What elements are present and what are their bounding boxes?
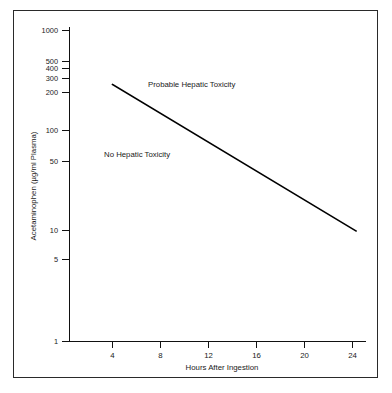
x-tick-label-4: 4 (110, 351, 115, 360)
x-axis-title: Hours After Ingestion (186, 363, 259, 372)
y-tick-label-1000: 1000 (42, 26, 58, 35)
y-tick-label-5: 5 (54, 255, 58, 264)
x-tick-label-12: 12 (204, 351, 213, 360)
y-tick-label-200: 200 (46, 88, 58, 97)
y-tick-label-300: 300 (46, 74, 58, 83)
nomogram-figure: 1000 500 400 300 200 100 50 10 5 1 4 8 1… (0, 0, 392, 393)
plot-area: 1000 500 400 300 200 100 50 10 5 1 4 8 1… (0, 0, 392, 393)
x-tick-marks (113, 342, 353, 349)
x-tick-label-24: 24 (348, 351, 357, 360)
y-tick-label-100: 100 (46, 126, 58, 135)
annotation-no-hepatic-toxicity: No Hepatic Toxicity (104, 150, 170, 159)
y-tick-label-400: 400 (46, 64, 58, 73)
y-tick-label-1: 1 (54, 337, 58, 346)
y-tick-marks (62, 31, 70, 342)
x-tick-label-20: 20 (300, 351, 309, 360)
annotation-probable-hepatic-toxicity: Probable Hepatic Toxicity (148, 80, 236, 89)
x-tick-label-8: 8 (158, 351, 162, 360)
y-tick-label-50: 50 (50, 157, 58, 166)
y-axis-title: Acetaminophen (µg/ml Plasma) (29, 131, 38, 240)
y-tick-label-10: 10 (50, 226, 58, 235)
x-tick-label-16: 16 (252, 351, 261, 360)
